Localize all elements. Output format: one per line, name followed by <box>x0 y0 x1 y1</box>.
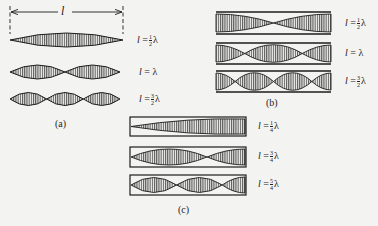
open-pipe-mode-2 <box>216 43 331 64</box>
label-a-3: l =32λ <box>139 93 160 106</box>
length-dimension-arrow <box>10 6 123 34</box>
caption-b: (b) <box>266 97 278 108</box>
label-b-2: l = λ <box>345 47 363 58</box>
closed-pipe-mode-3 <box>130 175 246 195</box>
label-c-3: l =54λ <box>258 178 279 191</box>
closed-pipe-mode-1 <box>130 117 246 136</box>
panel-a <box>10 6 123 106</box>
label-b-1: l =12λ <box>345 17 366 30</box>
string-mode-3 <box>10 93 120 106</box>
standing-wave-diagram <box>0 0 378 226</box>
caption-a: (a) <box>55 118 66 129</box>
length-label: l <box>61 4 64 19</box>
open-pipe-mode-3 <box>216 71 331 92</box>
label-c-2: l =34λ <box>258 150 279 163</box>
open-pipe-mode-1 <box>216 12 331 34</box>
closed-pipe-mode-2 <box>130 147 246 167</box>
label-a-2: l = λ <box>139 66 157 77</box>
label-a-1: l =12λ <box>137 34 158 47</box>
caption-c: (c) <box>178 204 189 215</box>
panel-b <box>216 12 331 92</box>
label-b-3: l =32λ <box>345 75 366 88</box>
panel-c <box>130 117 246 195</box>
string-mode-2 <box>10 65 120 79</box>
label-c-1: l =14λ <box>258 120 279 133</box>
string-mode-1 <box>10 33 123 47</box>
